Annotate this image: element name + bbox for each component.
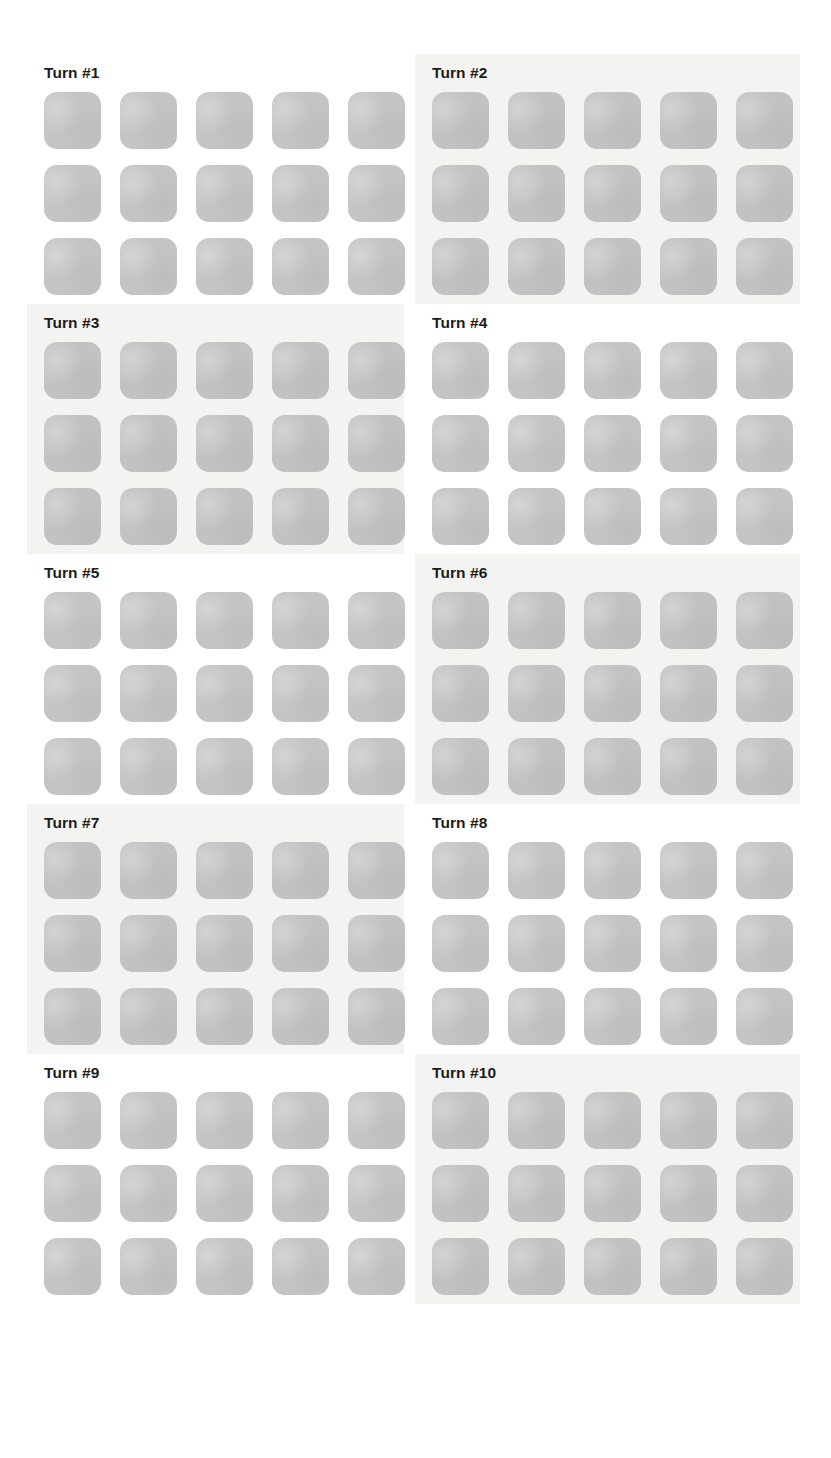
grid-tile[interactable]: [508, 1092, 565, 1149]
grid-tile[interactable]: [44, 415, 101, 472]
grid-tile[interactable]: [196, 488, 253, 545]
grid-tile[interactable]: [508, 1238, 565, 1295]
grid-tile[interactable]: [196, 415, 253, 472]
grid-tile[interactable]: [432, 1092, 489, 1149]
grid-tile[interactable]: [432, 1238, 489, 1295]
grid-tile[interactable]: [348, 415, 405, 472]
grid-tile[interactable]: [432, 488, 489, 545]
grid-tile[interactable]: [348, 842, 405, 899]
grid-tile[interactable]: [508, 488, 565, 545]
grid-tile[interactable]: [432, 92, 489, 149]
grid-tile[interactable]: [660, 665, 717, 722]
grid-tile[interactable]: [660, 342, 717, 399]
grid-tile[interactable]: [736, 342, 793, 399]
grid-tile[interactable]: [272, 488, 329, 545]
grid-tile[interactable]: [660, 915, 717, 972]
grid-tile[interactable]: [432, 1165, 489, 1222]
grid-tile[interactable]: [272, 1165, 329, 1222]
grid-tile[interactable]: [120, 915, 177, 972]
grid-tile[interactable]: [660, 488, 717, 545]
grid-tile[interactable]: [272, 92, 329, 149]
grid-tile[interactable]: [120, 665, 177, 722]
grid-tile[interactable]: [196, 342, 253, 399]
grid-tile[interactable]: [120, 1092, 177, 1149]
grid-tile[interactable]: [736, 238, 793, 295]
grid-tile[interactable]: [196, 1238, 253, 1295]
grid-tile[interactable]: [736, 988, 793, 1045]
grid-tile[interactable]: [432, 592, 489, 649]
grid-tile[interactable]: [272, 415, 329, 472]
grid-tile[interactable]: [196, 1165, 253, 1222]
grid-tile[interactable]: [736, 1092, 793, 1149]
grid-tile[interactable]: [584, 238, 641, 295]
grid-tile[interactable]: [120, 592, 177, 649]
grid-tile[interactable]: [508, 988, 565, 1045]
grid-tile[interactable]: [584, 342, 641, 399]
grid-tile[interactable]: [120, 342, 177, 399]
grid-tile[interactable]: [660, 738, 717, 795]
grid-tile[interactable]: [432, 842, 489, 899]
grid-tile[interactable]: [736, 842, 793, 899]
grid-tile[interactable]: [44, 342, 101, 399]
grid-tile[interactable]: [196, 1092, 253, 1149]
grid-tile[interactable]: [348, 342, 405, 399]
grid-tile[interactable]: [272, 842, 329, 899]
grid-tile[interactable]: [432, 665, 489, 722]
grid-tile[interactable]: [348, 738, 405, 795]
grid-tile[interactable]: [44, 915, 101, 972]
grid-tile[interactable]: [508, 738, 565, 795]
grid-tile[interactable]: [736, 92, 793, 149]
grid-tile[interactable]: [432, 915, 489, 972]
grid-tile[interactable]: [432, 415, 489, 472]
grid-tile[interactable]: [432, 342, 489, 399]
grid-tile[interactable]: [660, 842, 717, 899]
grid-tile[interactable]: [348, 592, 405, 649]
grid-tile[interactable]: [44, 1092, 101, 1149]
grid-tile[interactable]: [44, 238, 101, 295]
grid-tile[interactable]: [44, 738, 101, 795]
grid-tile[interactable]: [584, 415, 641, 472]
grid-tile[interactable]: [736, 488, 793, 545]
grid-tile[interactable]: [508, 238, 565, 295]
grid-tile[interactable]: [196, 238, 253, 295]
grid-tile[interactable]: [44, 92, 101, 149]
grid-tile[interactable]: [348, 238, 405, 295]
grid-tile[interactable]: [120, 1165, 177, 1222]
grid-tile[interactable]: [272, 592, 329, 649]
grid-tile[interactable]: [272, 665, 329, 722]
grid-tile[interactable]: [272, 238, 329, 295]
grid-tile[interactable]: [584, 92, 641, 149]
grid-tile[interactable]: [44, 665, 101, 722]
grid-tile[interactable]: [272, 165, 329, 222]
grid-tile[interactable]: [120, 488, 177, 545]
grid-tile[interactable]: [348, 488, 405, 545]
grid-tile[interactable]: [120, 1238, 177, 1295]
grid-tile[interactable]: [432, 988, 489, 1045]
grid-tile[interactable]: [736, 665, 793, 722]
grid-tile[interactable]: [432, 738, 489, 795]
grid-tile[interactable]: [272, 1092, 329, 1149]
grid-tile[interactable]: [44, 1238, 101, 1295]
grid-tile[interactable]: [736, 1238, 793, 1295]
grid-tile[interactable]: [660, 415, 717, 472]
grid-tile[interactable]: [272, 915, 329, 972]
grid-tile[interactable]: [196, 592, 253, 649]
grid-tile[interactable]: [348, 665, 405, 722]
grid-tile[interactable]: [432, 238, 489, 295]
grid-tile[interactable]: [272, 988, 329, 1045]
grid-tile[interactable]: [196, 842, 253, 899]
grid-tile[interactable]: [584, 665, 641, 722]
grid-tile[interactable]: [736, 915, 793, 972]
grid-tile[interactable]: [196, 92, 253, 149]
grid-tile[interactable]: [584, 738, 641, 795]
grid-tile[interactable]: [508, 1165, 565, 1222]
grid-tile[interactable]: [120, 738, 177, 795]
grid-tile[interactable]: [348, 165, 405, 222]
grid-tile[interactable]: [120, 842, 177, 899]
grid-tile[interactable]: [660, 1092, 717, 1149]
grid-tile[interactable]: [508, 915, 565, 972]
grid-tile[interactable]: [736, 165, 793, 222]
grid-tile[interactable]: [272, 738, 329, 795]
grid-tile[interactable]: [660, 988, 717, 1045]
grid-tile[interactable]: [660, 165, 717, 222]
